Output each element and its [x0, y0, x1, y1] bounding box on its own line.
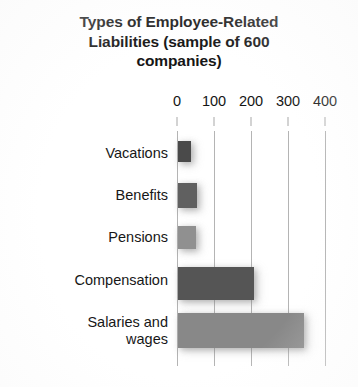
bar-pensions-fill — [178, 226, 196, 249]
x-tick-mark-400 — [325, 117, 326, 126]
chart-title-line-2: Liabilities (sample of 600 — [18, 32, 340, 52]
x-tick-label-300: 300 — [276, 93, 300, 109]
x-tick-label-400: 400 — [313, 93, 337, 109]
category-label-benefits: Benefits — [0, 187, 168, 204]
bar-compensation — [178, 267, 254, 300]
x-axis-scale: 0 100 200 300 400 — [0, 93, 358, 131]
bar-compensation-fill — [178, 267, 254, 300]
bar-vacations-fill — [178, 141, 191, 162]
chart-title-line-1: Types of Employee-Related — [18, 12, 340, 32]
x-tick-mark-200 — [251, 117, 252, 126]
x-tick-label-100: 100 — [202, 93, 226, 109]
bar-salaries-and-wages-fill — [178, 313, 304, 348]
category-label-vacations: Vacations — [0, 145, 168, 162]
bar-pensions — [178, 226, 196, 249]
category-label-salaries-and-wages: Salaries and wages — [0, 314, 168, 348]
category-label-pensions: Pensions — [0, 229, 168, 246]
bar-salaries-and-wages — [178, 313, 304, 348]
plot-area — [177, 131, 329, 366]
chart-title: Types of Employee-Related Liabilities (s… — [18, 12, 340, 71]
x-tick-label-200: 200 — [239, 93, 263, 109]
x-tick-mark-0 — [177, 117, 178, 126]
x-tick-mark-300 — [288, 117, 289, 126]
bar-benefits — [178, 183, 197, 208]
bar-vacations — [178, 141, 191, 162]
bar-benefits-fill — [178, 183, 197, 208]
x-tick-label-0: 0 — [173, 93, 181, 109]
bar-chart-figure: Types of Employee-Related Liabilities (s… — [0, 0, 358, 387]
chart-title-line-3: companies) — [18, 51, 340, 71]
category-label-compensation: Compensation — [0, 272, 168, 289]
x-tick-mark-100 — [214, 117, 215, 126]
gridline-400 — [325, 131, 326, 366]
